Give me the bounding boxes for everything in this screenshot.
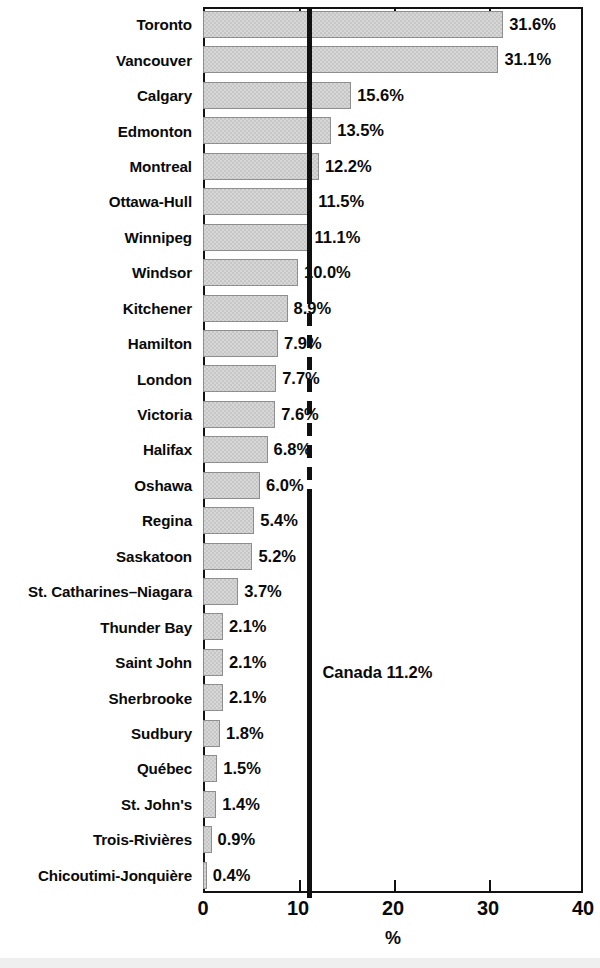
bar-value-label: 6.0% <box>260 472 304 499</box>
x-tick-label: 10 <box>287 897 309 920</box>
category-label: Kitchener <box>0 291 198 326</box>
category-label: Calgary <box>0 78 198 113</box>
x-axis-title: % <box>203 928 583 949</box>
category-label: Edmonton <box>0 113 198 148</box>
bar[interactable] <box>203 543 252 570</box>
category-label: Vancouver <box>0 42 198 77</box>
bar-value-label: 2.1% <box>223 684 267 711</box>
category-label: Saskatoon <box>0 539 198 574</box>
bar-value-label: 31.1% <box>498 46 551 73</box>
canada-reference-line-upper <box>307 7 312 291</box>
bar-value-label: 15.6% <box>351 82 404 109</box>
bar[interactable] <box>203 578 238 605</box>
bar-value-label: 10.0% <box>298 259 351 286</box>
category-axis-labels: TorontoVancouverCalgaryEdmontonMontrealO… <box>0 7 198 893</box>
bar-value-label: 2.1% <box>223 613 267 640</box>
x-tick-label: 0 <box>197 897 208 920</box>
bar-row: 1.4% <box>203 787 583 822</box>
bar-value-label: 5.2% <box>252 543 296 570</box>
category-label: Saint John <box>0 645 198 680</box>
bar-row: 2.1% <box>203 680 583 715</box>
canada-reference-label: Canada 11.2% <box>322 663 432 682</box>
bar[interactable] <box>203 224 308 251</box>
bar-row: 1.8% <box>203 716 583 751</box>
category-label: Québec <box>0 751 198 786</box>
bar-value-label: 1.5% <box>217 755 261 782</box>
category-label: Halifax <box>0 432 198 467</box>
category-label: Winnipeg <box>0 220 198 255</box>
x-tick-label: 20 <box>382 897 404 920</box>
category-label: London <box>0 361 198 396</box>
bar[interactable] <box>203 259 298 286</box>
bar[interactable] <box>203 436 268 463</box>
bar[interactable] <box>203 826 212 853</box>
bar-value-label: 12.2% <box>319 153 372 180</box>
bar[interactable] <box>203 82 351 109</box>
canada-reference-line-lower <box>307 499 312 898</box>
bar-row: 0.9% <box>203 822 583 857</box>
bar-value-label: 7.9% <box>278 330 322 357</box>
bar[interactable] <box>203 720 220 747</box>
bar-row: 8.9% <box>203 291 583 326</box>
bar[interactable] <box>203 613 223 640</box>
bar[interactable] <box>203 401 275 428</box>
bar-row: 7.9% <box>203 326 583 361</box>
bar-chart: TorontoVancouverCalgaryEdmontonMontrealO… <box>0 0 600 968</box>
bar[interactable] <box>203 507 254 534</box>
category-label: Hamilton <box>0 326 198 361</box>
bar-row: 6.0% <box>203 468 583 503</box>
bar-row: 7.7% <box>203 361 583 396</box>
bar[interactable] <box>203 11 503 38</box>
bar[interactable] <box>203 649 223 676</box>
bar-value-label: 3.7% <box>238 578 282 605</box>
bar[interactable] <box>203 188 312 215</box>
bar[interactable] <box>203 330 278 357</box>
bar-row: 5.4% <box>203 503 583 538</box>
bar-value-label: 1.8% <box>220 720 264 747</box>
bar[interactable] <box>203 755 217 782</box>
bar-value-label: 2.1% <box>223 649 267 676</box>
category-label: Oshawa <box>0 468 198 503</box>
bar-value-label: 6.8% <box>268 436 312 463</box>
bar-row: 5.2% <box>203 539 583 574</box>
category-label: St. Catharines–Niagara <box>0 574 198 609</box>
x-axis-tick-labels: 010203040 <box>203 897 583 923</box>
bar-value-label: 0.4% <box>207 862 251 889</box>
bar-value-label: 7.7% <box>276 365 320 392</box>
category-label: St. John's <box>0 787 198 822</box>
bar-value-label: 5.4% <box>254 507 298 534</box>
bar-row: 10.0% <box>203 255 583 290</box>
bar-row: 0.4% <box>203 858 583 893</box>
bar[interactable] <box>203 684 223 711</box>
category-label: Ottawa-Hull <box>0 184 198 219</box>
x-tick-label: 40 <box>572 897 594 920</box>
category-label: Sudbury <box>0 716 198 751</box>
category-label: Victoria <box>0 397 198 432</box>
category-label: Windsor <box>0 255 198 290</box>
bar[interactable] <box>203 46 498 73</box>
canada-reference-line-dashed <box>307 291 312 500</box>
bar-row: 11.1% <box>203 220 583 255</box>
bar-row: 15.6% <box>203 78 583 113</box>
bar-row: 7.6% <box>203 397 583 432</box>
bar-row: 31.6% <box>203 7 583 42</box>
bar-value-label: 1.4% <box>216 791 260 818</box>
bar[interactable] <box>203 791 216 818</box>
bar-row: 11.5% <box>203 184 583 219</box>
bar-row: 2.1% <box>203 609 583 644</box>
bar-value-label: 13.5% <box>331 117 384 144</box>
bar[interactable] <box>203 295 288 322</box>
category-label: Regina <box>0 503 198 538</box>
category-label: Sherbrooke <box>0 680 198 715</box>
x-tick-label: 30 <box>477 897 499 920</box>
bar-value-label: 11.1% <box>308 224 360 251</box>
bar[interactable] <box>203 472 260 499</box>
bar-row: 1.5% <box>203 751 583 786</box>
bar[interactable] <box>203 365 276 392</box>
category-label: Trois-Rivières <box>0 822 198 857</box>
category-label: Thunder Bay <box>0 609 198 644</box>
bar-value-label: 0.9% <box>212 826 256 853</box>
bar-row: 31.1% <box>203 42 583 77</box>
bar[interactable] <box>203 153 319 180</box>
category-label: Montreal <box>0 149 198 184</box>
